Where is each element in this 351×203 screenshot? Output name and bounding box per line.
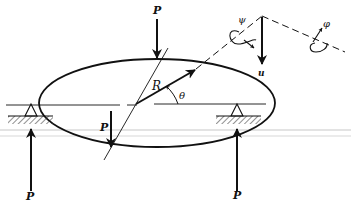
theta-arc (166, 86, 178, 104)
label-radius: R (151, 79, 161, 93)
rotation-phi-icon (310, 28, 327, 52)
radius-arrow (136, 70, 195, 104)
ring-diagram: P P P P R θ u ψ φ (0, 0, 351, 203)
label-reaction-left: P (25, 190, 35, 203)
label-reaction-right: P (232, 189, 242, 202)
label-theta: θ (179, 90, 185, 101)
right-support (216, 104, 261, 124)
rotation-psi-icon (230, 31, 256, 48)
label-psi: ψ (238, 14, 246, 25)
scan-lines (0, 130, 351, 136)
label-u: u (258, 68, 265, 78)
ring (39, 59, 275, 147)
label-load-top: P (152, 4, 162, 17)
label-load-inner: P (99, 121, 109, 134)
left-support (8, 104, 53, 124)
label-phi: φ (323, 18, 330, 29)
